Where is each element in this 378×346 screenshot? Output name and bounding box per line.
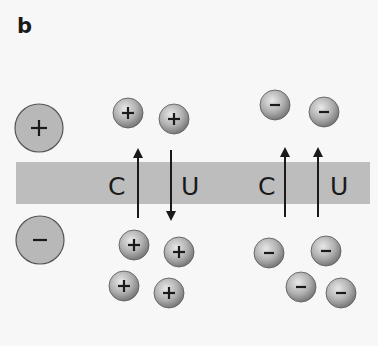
cation-ion bbox=[154, 278, 184, 308]
uncoupled-label: U bbox=[330, 172, 348, 201]
coupled-label: C bbox=[108, 172, 125, 201]
uncoupled-label: U bbox=[181, 172, 199, 201]
cation-ion bbox=[109, 271, 139, 301]
cation-ion bbox=[159, 104, 189, 134]
large-anion bbox=[16, 216, 64, 264]
anion-ion bbox=[286, 272, 316, 302]
anion-ion bbox=[311, 236, 341, 266]
large-cation bbox=[15, 104, 63, 152]
cation-ion bbox=[164, 237, 194, 267]
cation-ion bbox=[113, 98, 143, 128]
panel-label: b bbox=[17, 14, 32, 38]
anion-ion bbox=[260, 90, 290, 120]
anion-ion bbox=[254, 238, 284, 268]
anion-ion bbox=[309, 97, 339, 127]
cation-ion bbox=[119, 230, 149, 260]
coupled-label: C bbox=[258, 172, 275, 201]
anion-ion bbox=[326, 278, 356, 308]
membrane-transport-diagram: b C U bbox=[0, 0, 378, 346]
